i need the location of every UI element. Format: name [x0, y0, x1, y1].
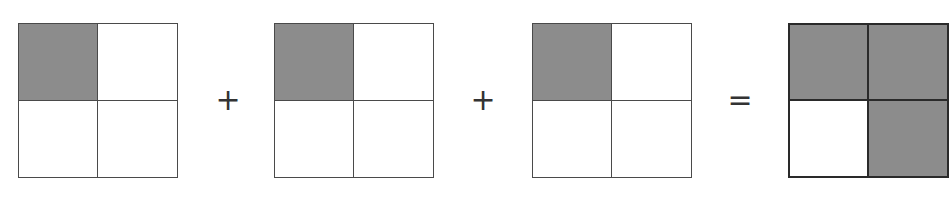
grid-3-cell-bottom-right	[612, 101, 691, 178]
grid-1-cell-bottom-left	[19, 101, 98, 178]
grid-1-cell-bottom-right	[98, 101, 177, 178]
grid-3-cell-top-left	[533, 24, 612, 101]
plus-sign-1: +	[215, 85, 240, 115]
grid-3-cell-top-right	[612, 24, 691, 101]
grid-2-cell-bottom-left	[275, 101, 354, 178]
grid-3	[532, 23, 692, 178]
grid-result-cell-bottom-left	[790, 101, 869, 177]
grid-result-cell-bottom-right	[869, 101, 948, 177]
grid-1-cell-top-left	[19, 24, 98, 101]
grid-2-cell-bottom-right	[354, 101, 433, 178]
grid-3-cell-bottom-left	[533, 101, 612, 178]
grid-result-cell-top-right	[869, 25, 948, 101]
grid-1	[18, 23, 178, 178]
grid-2	[274, 23, 434, 178]
grid-2-cell-top-left	[275, 24, 354, 101]
plus-sign-2: +	[470, 85, 495, 115]
grid-result	[788, 23, 949, 178]
grid-2-cell-top-right	[354, 24, 433, 101]
grid-1-cell-top-right	[98, 24, 177, 101]
equals-sign: =	[727, 85, 752, 115]
grid-result-cell-top-left	[790, 25, 869, 101]
